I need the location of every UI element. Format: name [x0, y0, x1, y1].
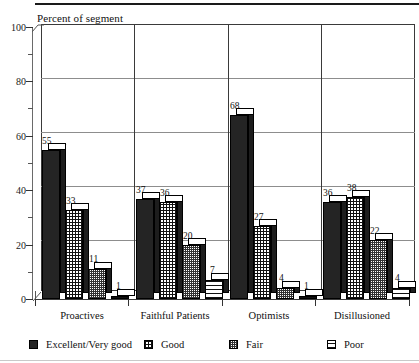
bar-front-face: [299, 296, 317, 299]
bar-front-face: [369, 240, 387, 299]
swatch-grid-icon: [144, 340, 153, 349]
bar-top-face: [282, 281, 300, 288]
bar-value-label: 20: [183, 231, 193, 241]
category-label-optimists: Optimists: [249, 310, 290, 321]
bar-optimists-fair[interactable]: [276, 288, 294, 299]
legend-item-fair[interactable]: Fair: [229, 339, 263, 350]
bar-chart: Percent of segment 100 80 60 40 20 0: [0, 0, 419, 363]
bar-side-face: [271, 220, 277, 293]
bar-value-label: 37: [136, 185, 146, 195]
bar-front-face: [65, 210, 83, 299]
bar-value-label: 4: [279, 273, 284, 283]
bar-proactives-poor[interactable]: [111, 296, 129, 299]
legend-label: Fair: [246, 339, 263, 350]
bar-front-face: [182, 245, 200, 299]
legend-item-poor[interactable]: Poor: [327, 339, 364, 350]
bar-value-label: 36: [160, 188, 170, 198]
bar-disillusioned-excellent[interactable]: [323, 202, 341, 299]
bar-value-label: 55: [42, 136, 52, 146]
bar-value-label: 36: [323, 188, 333, 198]
bar-value-label: 33: [66, 196, 76, 206]
bar-front-face: [392, 288, 410, 299]
bar-value-label: 38: [347, 183, 357, 193]
bar-optimists-excellent[interactable]: [230, 115, 248, 299]
bottom-divider: [0, 360, 419, 361]
bar-front-face: [230, 115, 248, 299]
category-label-disillusioned: Disillusioned: [334, 310, 390, 321]
bar-front-face: [276, 288, 294, 299]
bar-value-label: 7: [210, 265, 215, 275]
bar-front-face: [136, 199, 154, 299]
legend-item-excellent-very-good[interactable]: Excellent/Very good: [29, 339, 132, 350]
bar-value-label: 1: [116, 281, 121, 291]
legend-label: Excellent/Very good: [46, 339, 132, 350]
bar-faithful-patients-poor[interactable]: [205, 280, 223, 299]
bar-value-label: 68: [230, 101, 240, 111]
bar-front-face: [111, 296, 129, 299]
legend-item-good[interactable]: Good: [144, 339, 184, 350]
bar-disillusioned-poor[interactable]: [392, 288, 410, 299]
bar-disillusioned-good[interactable]: [346, 197, 364, 299]
bar-front-face: [346, 197, 364, 299]
category-label-proactives: Proactives: [60, 310, 104, 321]
bar-value-label: 27: [254, 212, 264, 222]
bar-top-face: [398, 281, 416, 288]
bar-front-face: [88, 269, 106, 299]
bar-optimists-poor[interactable]: [299, 296, 317, 299]
bar-faithful-patients-excellent[interactable]: [136, 199, 154, 299]
bar-faithful-patients-good[interactable]: [159, 202, 177, 299]
bar-optimists-good[interactable]: [253, 226, 271, 299]
bar-disillusioned-fair[interactable]: [369, 240, 387, 299]
bar-front-face: [253, 226, 271, 299]
chart-legend: Excellent/Very good Good Fair Poor: [0, 339, 419, 359]
swatch-dots-icon: [229, 340, 238, 349]
bar-front-face: [42, 150, 60, 299]
bar-value-label: 1: [304, 281, 309, 291]
bar-front-face: [323, 202, 341, 299]
bar-front-face: [159, 202, 177, 299]
legend-label: Poor: [344, 339, 364, 350]
swatch-solid-icon: [29, 340, 38, 349]
category-label-faithful-patients: Faithful Patients: [140, 310, 209, 321]
bar-value-label: 22: [370, 226, 380, 236]
bar-value-label: 4: [395, 273, 400, 283]
bar-side-face: [387, 234, 393, 293]
legend-label: Good: [161, 339, 184, 350]
swatch-hlines-icon: [327, 340, 336, 349]
bar-proactives-fair[interactable]: [88, 269, 106, 299]
bar-front-face: [205, 280, 223, 299]
bars-layer: 55 33 11 1 37: [0, 0, 419, 363]
bar-proactives-excellent[interactable]: [42, 150, 60, 299]
bar-proactives-good[interactable]: [65, 210, 83, 299]
bar-faithful-patients-fair[interactable]: [182, 245, 200, 299]
bar-value-label: 11: [89, 254, 98, 264]
